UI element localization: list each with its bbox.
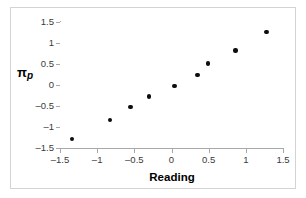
x-tick-label: –0.5 — [114, 155, 154, 165]
data-point — [264, 30, 268, 34]
data-point — [70, 137, 74, 141]
x-axis-title: Reading — [60, 172, 284, 184]
y-axis-title: πp — [17, 66, 33, 81]
scatter-plot-figure: –1.5–1–0.500.511.5 –1.5–1–0.500.511.5 πp… — [0, 0, 306, 198]
y-tick-label-wrap: 1 — [18, 38, 54, 48]
data-point — [147, 94, 151, 98]
x-tick-mark — [246, 148, 247, 153]
x-tick-label: 0.5 — [189, 155, 229, 165]
x-tick-label-wrap: 0 — [152, 155, 192, 167]
y-tick-label-wrap: 1.5 — [18, 17, 54, 27]
x-tick-mark — [134, 148, 135, 153]
x-tick-label: –1 — [77, 155, 117, 165]
x-tick-mark — [172, 148, 173, 153]
data-point — [128, 105, 132, 109]
x-tick-label-wrap: 1.5 — [263, 155, 303, 167]
x-tick-label: 1 — [226, 155, 266, 165]
x-tick-label: 1.5 — [263, 155, 303, 165]
x-tick-mark — [209, 148, 210, 153]
y-tick-label-wrap: –0.5 — [18, 101, 54, 111]
y-tick-label: 0 — [20, 80, 54, 90]
y-tick-label-wrap: 0 — [18, 80, 54, 90]
y-tick-label: –1.5 — [20, 143, 54, 153]
x-tick-mark — [283, 148, 284, 153]
y-axis-title-subscript: p — [27, 70, 33, 81]
data-point — [172, 84, 176, 88]
y-tick-label-wrap: –1 — [18, 122, 54, 132]
y-tick-label: 1.5 — [20, 17, 54, 27]
x-tick-label-wrap: –1 — [77, 155, 117, 167]
y-tick-label: –0.5 — [20, 101, 54, 111]
data-point — [195, 73, 199, 77]
y-axis-title-symbol: π — [17, 65, 27, 80]
data-point — [233, 48, 237, 52]
x-tick-label: –1.5 — [40, 155, 80, 165]
x-tick-mark — [97, 148, 98, 153]
y-tick-label-wrap: –1.5 — [18, 143, 54, 153]
x-tick-label-wrap: –0.5 — [114, 155, 154, 167]
y-tick-label: 1 — [20, 38, 54, 48]
x-tick-label: 0 — [152, 155, 192, 165]
data-point — [206, 61, 210, 65]
x-tick-mark — [60, 148, 61, 153]
x-tick-label-wrap: 1 — [226, 155, 266, 167]
y-tick-label: –1 — [20, 122, 54, 132]
x-tick-label-wrap: 0.5 — [189, 155, 229, 167]
x-tick-label-wrap: –1.5 — [40, 155, 80, 167]
